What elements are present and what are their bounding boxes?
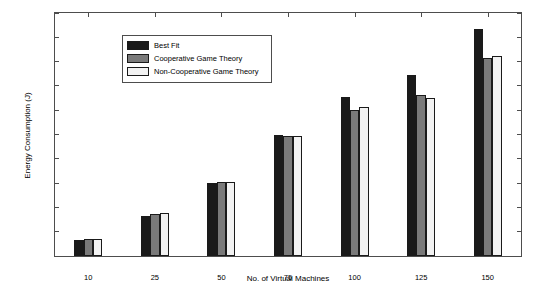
legend-item: Cooperative Game Theory — [127, 52, 267, 65]
bar-best-fit-150 — [474, 29, 483, 256]
y-tick — [55, 37, 59, 38]
y-tick — [517, 37, 521, 38]
y-tick — [517, 61, 521, 62]
bar-non-cooperative-game-theory-10 — [93, 239, 102, 256]
y-tick — [55, 13, 59, 14]
x-axis-title: No. of Virtual Machines — [54, 274, 522, 283]
chart-legend: Best Fit Cooperative Game Theory Non-Coo… — [122, 35, 272, 83]
bar-cooperative-game-theory-100 — [350, 110, 359, 256]
table-row — [341, 13, 369, 256]
y-tick — [55, 134, 59, 135]
legend-label-cooperative-game-theory: Cooperative Game Theory — [154, 54, 242, 63]
plot-area: 0500100015002000250030003500400045005000… — [54, 12, 522, 257]
y-tick — [55, 158, 59, 159]
y-tick — [517, 231, 521, 232]
y-tick — [55, 231, 59, 232]
y-tick — [517, 158, 521, 159]
legend-swatch-best-fit — [127, 41, 149, 50]
bar-non-cooperative-game-theory-125 — [426, 98, 435, 256]
bar-cooperative-game-theory-25 — [150, 214, 159, 256]
y-tick — [517, 256, 521, 257]
table-row — [74, 13, 102, 256]
bar-non-cooperative-game-theory-150 — [492, 56, 501, 256]
bar-non-cooperative-game-theory-25 — [160, 213, 169, 256]
legend-label-non-cooperative-game-theory: Non-Cooperative Game Theory — [154, 67, 259, 76]
bar-non-cooperative-game-theory-50 — [226, 182, 235, 256]
y-tick — [55, 61, 59, 62]
y-tick — [517, 207, 521, 208]
y-tick — [517, 134, 521, 135]
y-tick — [517, 110, 521, 111]
bar-cooperative-game-theory-50 — [217, 182, 226, 256]
bar-cooperative-game-theory-10 — [84, 239, 93, 256]
y-tick — [55, 207, 59, 208]
y-tick — [55, 183, 59, 184]
table-row — [474, 13, 502, 256]
bar-best-fit-10 — [74, 240, 83, 256]
bar-best-fit-125 — [407, 75, 416, 256]
legend-swatch-cooperative-game-theory — [127, 54, 149, 63]
y-tick — [517, 183, 521, 184]
legend-item: Non-Cooperative Game Theory — [127, 65, 267, 78]
legend-swatch-non-cooperative-game-theory — [127, 67, 149, 76]
bar-non-cooperative-game-theory-75 — [293, 136, 302, 256]
bar-best-fit-50 — [207, 183, 216, 256]
y-tick — [517, 85, 521, 86]
legend-label-best-fit: Best Fit — [154, 41, 179, 50]
bar-cooperative-game-theory-75 — [283, 136, 292, 256]
bar-best-fit-25 — [141, 216, 150, 256]
bar-cooperative-game-theory-150 — [483, 58, 492, 256]
y-axis-title: Energy Consumption (J) — [23, 36, 32, 236]
bar-best-fit-75 — [274, 135, 283, 256]
y-tick — [55, 110, 59, 111]
legend-item: Best Fit — [127, 39, 267, 52]
y-tick — [55, 85, 59, 86]
energy-consumption-bar-chart: 0500100015002000250030003500400045005000… — [0, 0, 543, 299]
bar-cooperative-game-theory-125 — [416, 95, 425, 256]
y-tick — [517, 13, 521, 14]
y-tick — [55, 256, 59, 257]
bar-best-fit-100 — [341, 97, 350, 256]
table-row — [407, 13, 435, 256]
table-row — [274, 13, 302, 256]
bar-non-cooperative-game-theory-100 — [359, 107, 368, 256]
